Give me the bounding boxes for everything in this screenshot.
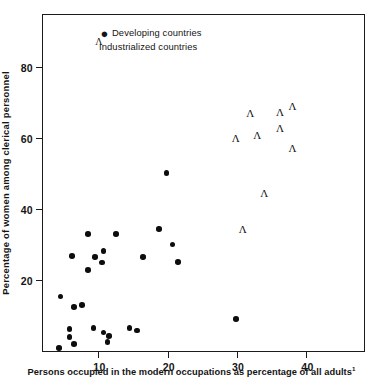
legend-label-developing: Developing countries <box>112 26 202 40</box>
y-tick-20: 20 <box>36 280 43 281</box>
data-point-industrialized-6: Λ <box>289 142 297 153</box>
data-point-developing-25 <box>233 316 239 322</box>
data-point-developing-10 <box>105 339 111 345</box>
y-axis-title: Percentage of women among clerical perso… <box>0 71 11 295</box>
data-point-developing-14 <box>85 267 91 273</box>
data-point-developing-2 <box>71 341 77 347</box>
data-point-developing-0 <box>56 345 62 351</box>
x-tick-10: 10 <box>98 351 99 358</box>
x-axis-title: Persons occupied in the modern occupatio… <box>0 365 383 377</box>
data-point-developing-21 <box>156 226 162 232</box>
x-tick-30: 30 <box>237 351 238 358</box>
legend-item-industrialized: Λ Industrialized countries <box>99 40 202 54</box>
data-point-industrialized-0: Λ <box>232 133 240 144</box>
y-tick-label-40: 40 <box>21 204 33 216</box>
x-axis-footnote-marker: 1 <box>352 365 356 372</box>
data-point-developing-1 <box>67 334 73 340</box>
data-point-developing-6 <box>79 302 85 308</box>
data-point-developing-15 <box>85 231 91 237</box>
data-point-developing-24 <box>175 259 181 265</box>
y-tick-label-80: 80 <box>21 61 33 73</box>
data-point-developing-4 <box>58 294 64 300</box>
y-tick-label-60: 60 <box>21 132 33 144</box>
data-point-developing-5 <box>71 304 77 310</box>
data-point-developing-17 <box>101 248 107 254</box>
data-point-industrialized-4: Λ <box>276 123 284 134</box>
data-point-industrialized-7: Λ <box>260 187 268 198</box>
data-point-developing-3 <box>67 326 73 332</box>
data-point-developing-7 <box>91 325 97 331</box>
data-point-developing-11 <box>127 325 133 331</box>
y-tick-40: 40 <box>36 209 43 210</box>
caret-marker-icon: Λ <box>94 35 105 46</box>
chart-legend: ● Developing countries Λ Industrialized … <box>99 26 202 53</box>
x-tick-40: 40 <box>306 351 307 358</box>
data-point-industrialized-8: Λ <box>239 224 247 235</box>
scatter-chart-figure: Percentage of women among clerical perso… <box>0 0 383 383</box>
y-tick-60: 60 <box>36 138 43 139</box>
legend-item-developing: ● Developing countries <box>99 26 202 40</box>
data-point-industrialized-3: Λ <box>276 106 284 117</box>
data-point-developing-23 <box>170 242 176 248</box>
data-point-developing-13 <box>69 253 75 259</box>
x-axis-title-text: Persons occupied in the modern occupatio… <box>28 367 352 377</box>
data-point-industrialized-5: Λ <box>289 101 297 112</box>
data-point-developing-16 <box>92 254 98 260</box>
data-point-developing-19 <box>113 231 119 237</box>
x-tick-20: 20 <box>168 351 169 358</box>
y-tick-label-20: 20 <box>21 275 33 287</box>
data-point-developing-18 <box>99 260 105 266</box>
data-point-developing-20 <box>140 254 146 260</box>
data-point-developing-12 <box>134 328 140 334</box>
data-point-industrialized-2: Λ <box>253 129 261 140</box>
data-point-developing-22 <box>164 170 170 176</box>
legend-label-industrialized: Industrialized countries <box>99 40 197 54</box>
data-point-industrialized-1: Λ <box>246 107 254 118</box>
plot-area: ● Developing countries Λ Industrialized … <box>42 14 365 352</box>
y-tick-80: 80 <box>36 67 43 68</box>
data-point-developing-9 <box>106 333 112 339</box>
